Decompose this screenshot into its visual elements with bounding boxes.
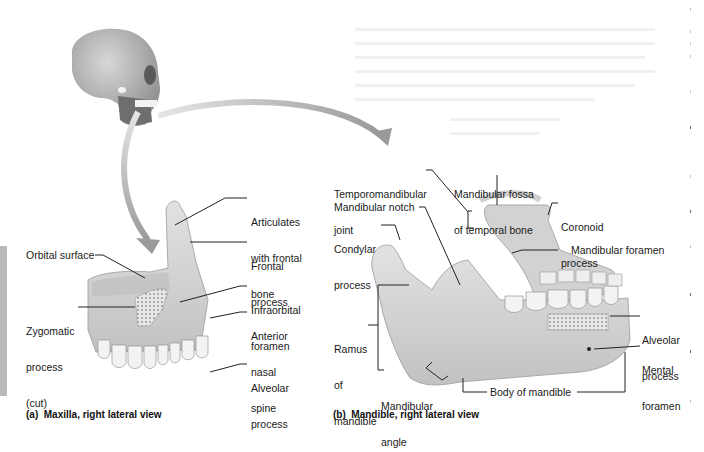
label-body-of-mandible: Body of mandible: [490, 386, 571, 398]
caption-panel-b: (b) Mandible, right lateral view: [333, 409, 479, 420]
label-orbital-surface: Orbital surface: [26, 249, 94, 261]
label-mandibular-notch: Mandibular notch: [334, 201, 415, 213]
label-ramus-of-mandible: Ramus of mandible: [334, 319, 377, 451]
arrow-to-mandible: [158, 102, 392, 146]
label-mandibular-foramen: Mandibular foramen: [571, 244, 664, 256]
caption-panel-a: (a) Maxilla, right lateral view: [26, 409, 162, 420]
label-mandibular-fossa: Mandibular fossa of temporal bone: [454, 164, 534, 260]
label-alveolar-process-maxilla: Alveolar process: [251, 358, 289, 452]
maxilla-illustration: [88, 201, 208, 368]
label-condylar-process: Condylar process: [334, 219, 376, 315]
arrow-to-maxilla: [124, 112, 160, 254]
skull-icon: [72, 29, 160, 126]
label-mental-foramen: Mental foramen: [642, 340, 681, 436]
